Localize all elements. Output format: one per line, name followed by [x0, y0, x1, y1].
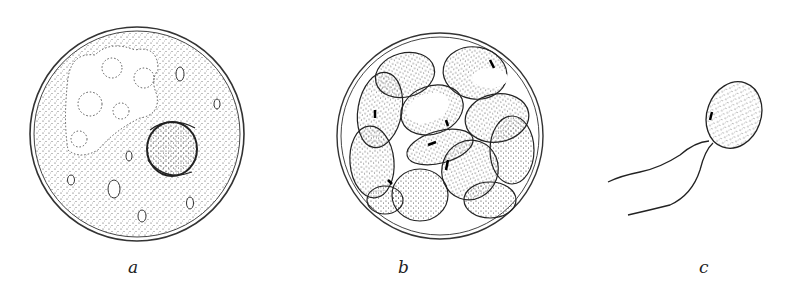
panel-c-label: c: [699, 257, 709, 277]
panel-b-cyst: [337, 33, 543, 239]
panel-b-label: b: [398, 257, 409, 277]
panel-a-label: a: [128, 257, 138, 277]
illustration: [0, 0, 808, 286]
panel-c-flagellate: [608, 74, 771, 215]
panel-a-cyst: [30, 27, 244, 241]
